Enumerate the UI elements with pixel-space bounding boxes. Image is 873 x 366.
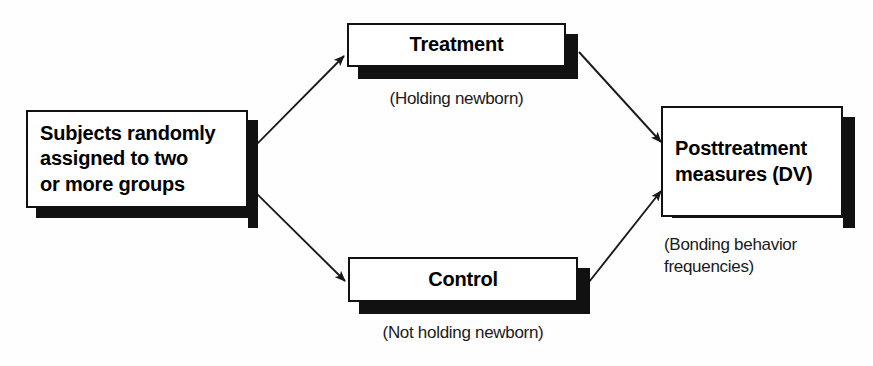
subjects-box-label: Subjects randomly assigned to two or mor… xyxy=(28,121,246,198)
treatment-box-label: Treatment xyxy=(349,32,564,58)
posttreatment-box-face: Posttreatment measures (DV) xyxy=(661,106,843,217)
subjects-box-shadow-bottom xyxy=(36,208,258,218)
arrow-subjects-to-treatment xyxy=(253,56,344,148)
treatment-box-shadow-bottom xyxy=(358,67,578,79)
diagram-canvas: Subjects randomly assigned to two or mor… xyxy=(0,0,873,366)
control-box-face: Control xyxy=(348,257,578,302)
node-control[interactable]: Control xyxy=(348,257,590,314)
treatment-caption: (Holding newborn) xyxy=(347,88,566,110)
control-box-shadow-bottom xyxy=(359,302,590,314)
posttreatment-caption: (Bonding behavior frequencies) xyxy=(664,234,864,279)
node-posttreatment[interactable]: Posttreatment measures (DV) xyxy=(661,106,855,228)
control-caption: (Not holding newborn) xyxy=(343,322,583,344)
arrow-subjects-to-control xyxy=(253,190,345,281)
node-subjects[interactable]: Subjects randomly assigned to two or mor… xyxy=(26,110,258,228)
posttreatment-box-label: Posttreatment measures (DV) xyxy=(663,136,841,187)
node-treatment[interactable]: Treatment xyxy=(347,23,578,79)
arrow-treatment-to-posttreatment xyxy=(579,52,661,142)
arrow-control-to-posttreatment xyxy=(589,191,661,282)
control-box-label: Control xyxy=(350,267,576,293)
treatment-box-face: Treatment xyxy=(347,23,566,67)
subjects-box-face: Subjects randomly assigned to two or mor… xyxy=(26,110,248,208)
